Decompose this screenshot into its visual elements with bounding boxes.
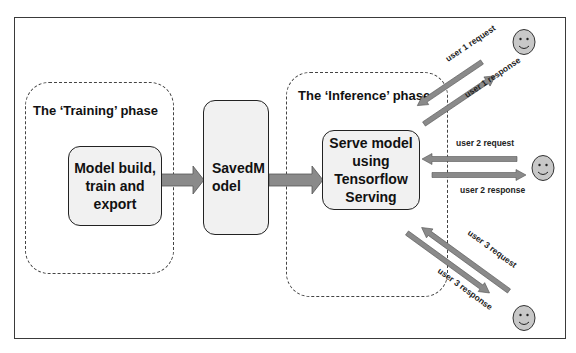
savedmodel-node: SavedM odel <box>203 100 269 235</box>
user2-request-arrow-shape <box>422 154 517 165</box>
user1-smiley-icon <box>513 30 535 55</box>
arrow-build-to-savedmodel <box>161 166 204 194</box>
user2-request-label: user 2 request <box>456 138 514 148</box>
user2-response-label: user 2 response <box>460 185 525 195</box>
arrow-savedmodel-to-serve <box>269 166 323 194</box>
user3-smiley-icon <box>513 306 535 331</box>
model-build-node: Model build, train and export <box>68 146 162 226</box>
user2-response-arrow-shape <box>432 170 526 181</box>
serve-model-node: Serve model using Tensorflow Serving <box>322 130 420 210</box>
arrow-user1-request <box>143 58 482 116</box>
user2-smiley-icon <box>532 156 554 181</box>
user1-response-label: user 1 response <box>463 55 523 100</box>
user1-request-label: user 1 request <box>444 23 498 64</box>
user1-request-arrow <box>140 60 484 116</box>
arrow-user1-request <box>137 58 484 117</box>
